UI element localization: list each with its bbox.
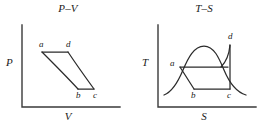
thermodynamic-cycle-figure: P–V P V a d b c T–S T S <box>0 0 272 130</box>
pv-point-label-d: d <box>66 39 71 49</box>
pv-point-label-a: a <box>39 39 44 49</box>
ts-saturation-dome <box>164 46 246 95</box>
ts-point-label-a: a <box>170 58 175 68</box>
ts-diagram-panel: T–S T S a d b c <box>136 0 272 130</box>
pv-plot-svg <box>0 0 136 130</box>
pv-point-label-b: b <box>76 90 81 100</box>
ts-point-label-b: b <box>191 90 196 100</box>
pv-diagram-panel: P–V P V a d b c <box>0 0 136 130</box>
ts-segment-superheat-arc <box>221 45 230 67</box>
ts-plot-svg <box>136 0 272 130</box>
ts-segment-b-a <box>180 67 194 89</box>
pv-point-label-c: c <box>93 90 97 100</box>
pv-segment-d-c <box>68 52 94 89</box>
pv-axes <box>22 25 120 107</box>
pv-segment-b-a <box>42 52 78 89</box>
ts-point-label-d: d <box>228 31 233 41</box>
ts-point-label-c: c <box>227 90 231 100</box>
